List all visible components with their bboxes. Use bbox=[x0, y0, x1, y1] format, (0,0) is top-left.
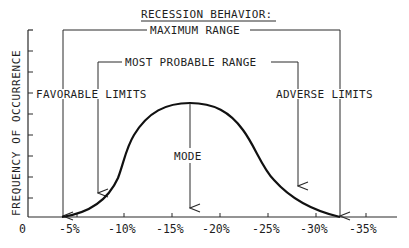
recession-behavior-diagram: RECESSION BEHAVIOR: FREQUENCY OF OCCURRE… bbox=[0, 0, 409, 248]
x-axis-tick-labels: 0 -5% -10% -15% -20% -25% -30% -35% bbox=[19, 222, 377, 236]
x-tick-label: -15% bbox=[156, 222, 184, 236]
maximum-range-label: MAXIMUM RANGE bbox=[150, 24, 240, 37]
x-tick-label: -35% bbox=[349, 222, 377, 236]
most-probable-range-label: MOST PROBABLE RANGE bbox=[125, 56, 257, 69]
x-tick-label: 0 bbox=[19, 222, 26, 236]
x-tick-label: -5% bbox=[59, 222, 80, 236]
favorable-limits-label: FAVORABLE LIMITS bbox=[36, 88, 147, 101]
y-axis-ticks bbox=[28, 51, 33, 198]
x-tick-label: -20% bbox=[202, 222, 230, 236]
x-tick-label: -25% bbox=[252, 222, 280, 236]
x-tick-label: -10% bbox=[108, 222, 136, 236]
x-tick-label: -30% bbox=[300, 222, 328, 236]
chart-title: RECESSION BEHAVIOR: bbox=[141, 8, 273, 21]
mode-label: MODE bbox=[174, 150, 202, 163]
y-axis-label: FREQUENCY OF OCCURRENCE bbox=[10, 50, 23, 216]
adverse-limits-label: ADVERSE LIMITS bbox=[276, 88, 373, 101]
